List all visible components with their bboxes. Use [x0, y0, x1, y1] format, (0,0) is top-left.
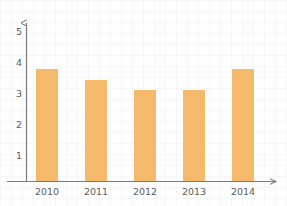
bar-chart: 5 4 3 2 1 2010 2011 2012 2013 2014 — [0, 0, 287, 206]
y-tick-label-1: 1 — [8, 151, 22, 161]
x-tick-label-2013: 2013 — [172, 186, 216, 197]
bar-2011[interactable] — [85, 80, 107, 181]
bar-2012[interactable] — [134, 90, 156, 181]
x-tick-label-2014: 2014 — [221, 186, 265, 197]
x-tick-label-2011: 2011 — [74, 186, 118, 197]
y-tick-label-2: 2 — [8, 120, 22, 130]
bar-2010[interactable] — [36, 69, 58, 181]
x-tick-label-2010: 2010 — [25, 186, 69, 197]
y-tick-label-4: 4 — [8, 58, 22, 68]
y-tick-label-3: 3 — [8, 89, 22, 99]
x-tick-label-2012: 2012 — [123, 186, 167, 197]
bar-2013[interactable] — [183, 90, 205, 181]
plot-area: 5 4 3 2 1 2010 2011 2012 2013 2014 — [0, 0, 287, 206]
y-tick-label-5: 5 — [8, 27, 22, 37]
bar-2014[interactable] — [232, 69, 254, 181]
